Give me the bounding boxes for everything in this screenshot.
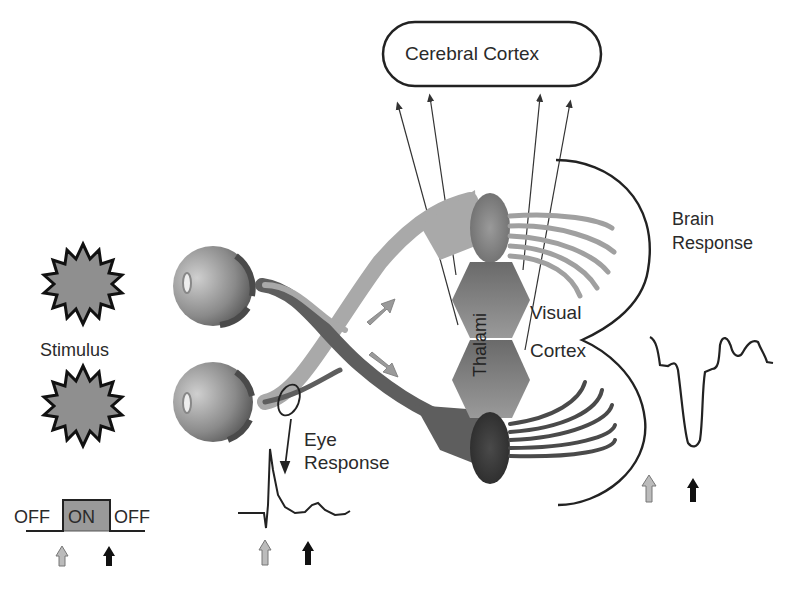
visual-pathway-diagram bbox=[0, 0, 790, 589]
eye-top bbox=[173, 246, 253, 326]
brain-response-label-line2: Response bbox=[672, 232, 753, 254]
thalami-label-wrap: Thalami bbox=[468, 300, 492, 390]
eye-response-label-line2: Response bbox=[304, 452, 390, 474]
stimulus-label: Stimulus bbox=[40, 339, 109, 361]
onset-arrow-stimulus bbox=[56, 546, 68, 566]
off-left-label: OFF bbox=[14, 506, 50, 528]
offset-arrow-stimulus bbox=[103, 546, 115, 566]
stimulus-starburst-bottom bbox=[44, 366, 122, 446]
optic-radiations-top bbox=[510, 215, 614, 296]
offset-arrow-eye bbox=[302, 541, 314, 565]
onset-arrow-brain bbox=[642, 475, 656, 502]
stimulus-starburst-top bbox=[44, 244, 122, 324]
optic-radiations-bottom bbox=[510, 382, 615, 456]
brain-response-waveform bbox=[650, 337, 773, 446]
offset-arrow-brain bbox=[687, 478, 699, 502]
eye-bottom bbox=[173, 362, 253, 442]
thalami-label: Thalami bbox=[470, 313, 491, 377]
visual-label: Visual bbox=[530, 302, 581, 324]
brain-response-label-line1: Brain bbox=[672, 208, 714, 230]
optic-nerves bbox=[262, 190, 480, 465]
cerebral-cortex-label: Cerebral Cortex bbox=[405, 43, 539, 65]
off-right-label: OFF bbox=[114, 506, 150, 528]
cortex-label: Cortex bbox=[530, 340, 586, 362]
signal-direction-arrows bbox=[367, 299, 398, 377]
onset-arrow-eye bbox=[259, 540, 271, 565]
on-label: ON bbox=[68, 506, 95, 528]
eye-response-label-line1: Eye bbox=[304, 429, 337, 451]
